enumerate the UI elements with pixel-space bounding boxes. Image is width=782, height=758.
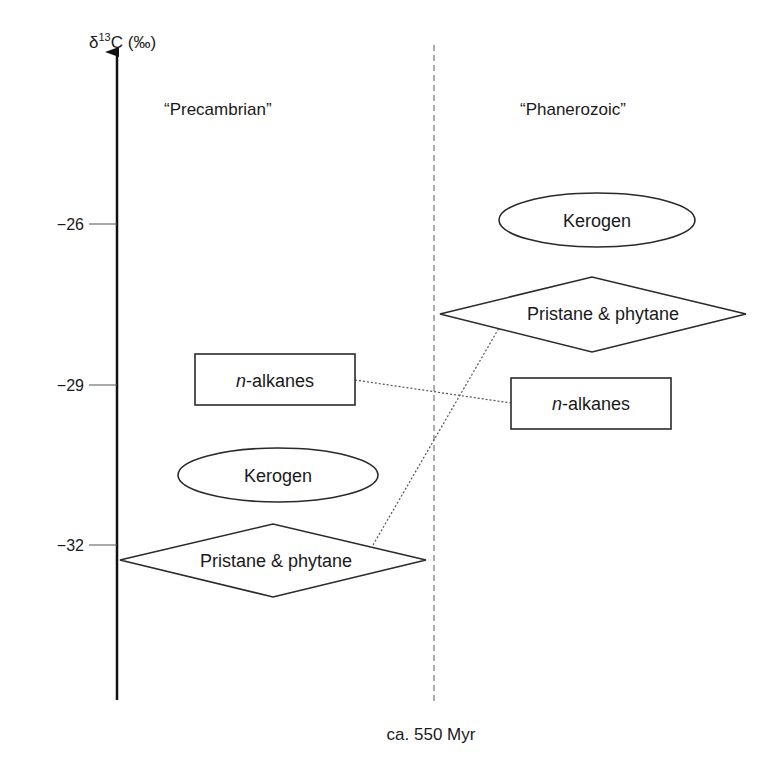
node-precambrian-pristane-label: Pristane & phytane [200,551,352,571]
boundary-label: ca. 550 Myr [387,725,476,744]
period-precambrian: “Precambrian” [164,100,272,119]
node-phanerozoic-pristane-label: Pristane & phytane [527,304,679,324]
node-precambrian-alkanes-label: n-alkanes [236,371,314,391]
tick-label-29: −29 [57,377,84,394]
y-axis-title: δ13C (‰) [89,31,156,52]
connector-alkanes [355,380,511,403]
period-phanerozoic: “Phanerozoic” [520,100,626,119]
node-phanerozoic-kerogen-label: Kerogen [563,211,631,231]
connector-pristane [373,328,499,545]
tick-label-26: −26 [57,216,84,233]
node-phanerozoic-alkanes-label: n-alkanes [552,394,630,414]
node-precambrian-kerogen-label: Kerogen [244,466,312,486]
tick-label-32: −32 [57,537,84,554]
isotope-diagram: δ13C (‰) −26 −29 −32 ca. 550 Myr “Precam… [0,0,782,758]
